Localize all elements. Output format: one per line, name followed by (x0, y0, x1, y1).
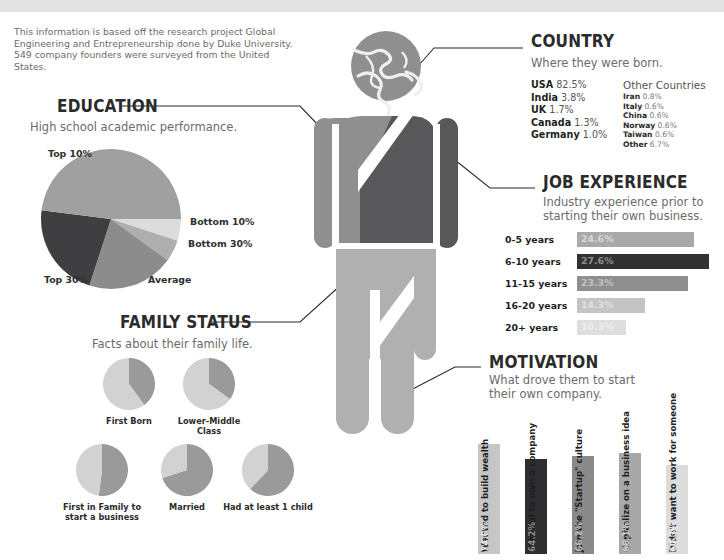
bar-value: 10.3% (581, 321, 614, 332)
intro-text: This information is based off the resear… (14, 26, 304, 72)
bar-value: 27.6% (581, 255, 614, 266)
education-label-top10: Top 10% (48, 148, 92, 159)
country-other-heading: Other Countries (623, 79, 706, 91)
family-status-title: FAMILY STATUS (120, 312, 252, 332)
bar-label: 6-10 years (505, 256, 577, 267)
vbar: Didn't want to work for someone 60.3% (666, 465, 688, 554)
job-experience-title: JOB EXPERIENCE (543, 172, 688, 192)
education-subtitle: High school academic performance. (30, 120, 237, 134)
country-other-row: Italy 0.6% (623, 102, 706, 112)
country-value: 1.3% (574, 117, 598, 128)
family-pie-item: Married (150, 444, 224, 513)
country-other-row: Iran 0.8% (623, 92, 706, 102)
bar-value: 24.6% (581, 233, 614, 244)
bar-label: 11-15 years (505, 278, 577, 289)
country-row: USA 82.5% (531, 79, 623, 92)
education-title: EDUCATION (57, 96, 158, 116)
globe-icon (351, 31, 421, 114)
bar-row: 16-20 years 14.3% (505, 294, 720, 316)
vbar: Wanted to own a company 64.2% (525, 459, 547, 554)
country-other-row: Other 6.7% (623, 140, 706, 150)
bar-row: 6-10 years 27.6% (505, 250, 720, 272)
country-other-row: Norway 0.6% (623, 121, 706, 131)
country-name: Canada (531, 117, 571, 128)
country-row: India 3.8% (531, 92, 623, 105)
country-section: COUNTRY Where they were born. USA 82.5% … (531, 31, 721, 150)
country-value: 3.8% (561, 92, 585, 103)
job-experience-subtitle: Industry experience prior to starting th… (543, 195, 723, 223)
vbar: Wanted to build wealth 74.6% (478, 444, 500, 554)
motivation-bars: Wanted to build wealth 74.6% Wanted to o… (478, 406, 718, 554)
family-pie-label: Lower-Middle Class (172, 417, 246, 437)
bar-label: 20+ years (505, 322, 577, 333)
education-label-top30: Top 30% (44, 274, 88, 285)
family-pie-label: First in Family to start a business (52, 503, 152, 523)
country-value: 82.5% (556, 79, 586, 90)
family-pie-item: Lower-Middle Class (172, 358, 246, 437)
bar-label: 0-5 years (505, 234, 577, 245)
country-other-list: Other Countries Iran 0.8% Italy 0.6% Chi… (623, 79, 706, 150)
person-figure (296, 28, 476, 458)
country-name: India (531, 92, 558, 103)
family-pie-label: Had at least 1 child (218, 503, 318, 513)
country-name: Germany (531, 129, 580, 140)
country-name: USA (531, 79, 553, 90)
bar-row: 11-15 years 23.3% (505, 272, 720, 294)
job-experience-bars: 0-5 years 24.6% 6-10 years 27.6% 11-15 y… (505, 228, 720, 338)
education-label-average: Average (148, 274, 191, 285)
bar-value: 14.3% (581, 299, 614, 310)
motivation-subtitle: What drove them to start their own compa… (489, 373, 639, 401)
family-pie-item: First in Family to start a business (52, 444, 152, 523)
vbar: Capitalize on a business idea 68.1% (619, 453, 641, 554)
vbar-value: 74.6% (481, 522, 490, 552)
motivation-title: MOTIVATION (489, 352, 598, 372)
country-name: UK (531, 104, 546, 115)
vbar-value: 68.1% (622, 522, 631, 552)
bar-row: 0-5 years 24.6% (505, 228, 720, 250)
vbar-value: 66.2% (575, 522, 584, 552)
pie-slice (42, 149, 181, 219)
education-label-bottom30: Bottom 30% (188, 238, 252, 249)
bar-value: 23.3% (581, 277, 614, 288)
bar-label: 16-20 years (505, 300, 577, 311)
country-row: UK 1.7% (531, 104, 623, 117)
education-label-bottom10: Bottom 10% (190, 216, 254, 227)
country-subtitle: Where they were born. (531, 56, 721, 70)
country-row: Canada 1.3% (531, 117, 623, 130)
pie-slice (76, 444, 102, 496)
country-title: COUNTRY (531, 31, 721, 51)
family-pie-label: Married (150, 503, 224, 513)
vbar-value: 60.3% (669, 522, 678, 552)
vbar: Join the "Startup" culture 66.2% (572, 456, 594, 554)
country-main-list: USA 82.5% India 3.8% UK 1.7% Canada 1.3%… (531, 79, 623, 150)
country-value: 1.0% (583, 129, 607, 140)
family-pie-item: Had at least 1 child (218, 444, 318, 513)
country-row: Germany 1.0% (531, 129, 623, 142)
family-pie-label: First Born (92, 417, 166, 427)
vbar-value: 64.2% (528, 522, 537, 552)
pie-slice (99, 444, 128, 496)
education-pie-chart (40, 148, 198, 290)
country-other-row: China 0.6% (623, 111, 706, 121)
bar-row: 20+ years 10.3% (505, 316, 720, 338)
country-other-row: Taiwan 0.6% (623, 130, 706, 140)
family-status-subtitle: Facts about their family life. (92, 337, 253, 351)
country-value: 1.7% (549, 104, 573, 115)
top-bar (0, 0, 724, 12)
family-pie-item: First Born (92, 358, 166, 427)
